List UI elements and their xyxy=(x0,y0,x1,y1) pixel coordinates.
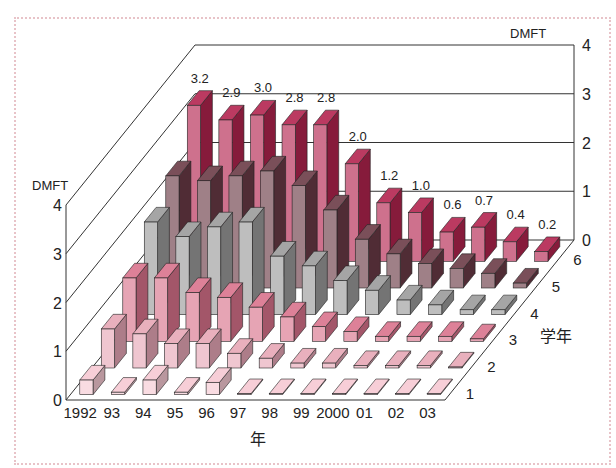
bar xyxy=(354,351,379,368)
depth-tick-label: 3 xyxy=(509,331,517,348)
z-tick-right: 0 xyxy=(582,232,591,249)
x-tick-label: 03 xyxy=(419,404,436,421)
bar xyxy=(417,351,442,368)
x-tick-label: 99 xyxy=(293,404,310,421)
data-label: 2.8 xyxy=(317,90,335,105)
data-label: 2.0 xyxy=(349,129,367,144)
z-tick-right: 3 xyxy=(582,86,591,103)
bar xyxy=(228,339,253,368)
z-axis-title-right: DMFT xyxy=(510,26,546,41)
data-label: 0.4 xyxy=(507,207,525,222)
data-label: 0.6 xyxy=(443,197,461,212)
bar xyxy=(470,324,495,341)
bar xyxy=(460,295,485,315)
depth-axis-title: 学年 xyxy=(540,328,572,345)
z-tick-right: 4 xyxy=(582,37,591,54)
x-tick-label: 93 xyxy=(103,404,120,421)
z-tick-left: 3 xyxy=(53,246,62,263)
x-tick-label: 95 xyxy=(167,404,184,421)
bar xyxy=(535,237,560,261)
x-tick-label: 02 xyxy=(388,404,405,421)
bar xyxy=(301,379,326,395)
z-axis-title-left: DMFT xyxy=(32,178,68,193)
bar xyxy=(238,379,263,395)
data-label: 3.0 xyxy=(254,80,272,95)
bar xyxy=(492,295,517,315)
z-tick-right: 1 xyxy=(582,183,591,200)
z-tick-right: 2 xyxy=(582,135,591,152)
bar xyxy=(322,348,347,368)
depth-tick-label: 4 xyxy=(530,305,538,322)
bar xyxy=(332,379,357,395)
z-tick-left: 4 xyxy=(53,197,62,214)
depth-tick-label: 2 xyxy=(487,358,495,375)
bar xyxy=(344,317,369,341)
bar xyxy=(364,379,389,395)
bar xyxy=(175,378,200,395)
bar xyxy=(291,348,316,368)
x-tick-label: 96 xyxy=(198,404,215,421)
data-label: 0.2 xyxy=(538,217,556,232)
depth-tick-label: 5 xyxy=(552,278,560,295)
z-tick-left: 1 xyxy=(53,343,62,360)
z-tick-left: 2 xyxy=(53,295,62,312)
bar xyxy=(259,344,284,368)
bar xyxy=(397,285,422,314)
x-tick-label: 98 xyxy=(261,404,278,421)
data-label: 1.0 xyxy=(412,178,430,193)
data-label: 0.7 xyxy=(475,193,493,208)
data-label: 1.2 xyxy=(380,168,398,183)
bar xyxy=(386,351,411,368)
bar xyxy=(482,259,507,288)
bar xyxy=(396,379,421,395)
x-tick-label: 97 xyxy=(230,404,247,421)
bar xyxy=(439,322,464,342)
bar xyxy=(206,368,231,395)
bar xyxy=(111,378,136,395)
bar xyxy=(101,314,126,368)
bar xyxy=(80,365,105,394)
x-tick-label: 01 xyxy=(356,404,373,421)
z-tick-left: 0 xyxy=(53,392,62,409)
x-tick-label: 94 xyxy=(135,404,152,421)
x-axis-title: 年 xyxy=(250,431,266,448)
dmft-3d-bar-chart: 0011223344DMFTDMFT3.22.93.02.82.82.01.21… xyxy=(0,0,616,468)
bar xyxy=(429,290,454,314)
data-label: 2.9 xyxy=(222,85,240,100)
depth-tick-label: 1 xyxy=(466,385,474,402)
bar xyxy=(407,322,432,342)
depth-tick-label: 6 xyxy=(573,251,581,268)
bar xyxy=(449,352,474,368)
x-tick-label: 1992 xyxy=(64,404,97,421)
bar xyxy=(513,268,538,288)
data-label: 3.2 xyxy=(191,71,209,86)
bar xyxy=(503,227,528,261)
bar xyxy=(269,379,294,395)
bar xyxy=(143,365,168,394)
x-tick-label: 2000 xyxy=(316,404,349,421)
data-label: 2.8 xyxy=(286,90,304,105)
bar xyxy=(427,379,452,395)
bar xyxy=(375,322,400,342)
bar xyxy=(312,312,337,341)
